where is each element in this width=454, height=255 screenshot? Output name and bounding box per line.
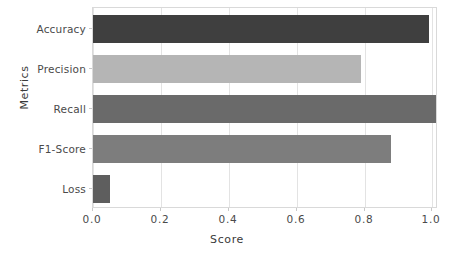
- y-tick-label-loss: Loss: [8, 183, 86, 195]
- bar-precision: [93, 55, 361, 83]
- x-tick-label-0.8: 0.8: [344, 213, 384, 225]
- x-tick-label-1.0: 1.0: [411, 213, 451, 225]
- y-axis-title-wrapper: Metrics: [13, 28, 32, 148]
- bar-f1-score: [93, 135, 391, 163]
- bar-loss: [93, 175, 110, 203]
- bar-accuracy: [93, 15, 429, 43]
- x-tick-label-0.0: 0.0: [72, 213, 112, 225]
- y-tick-label-f1-score: F1-Score: [8, 143, 86, 155]
- x-tick-mark-0.2: [160, 208, 161, 211]
- bar-chart-figure: Metrics Accuracy Precision Recall F1-Sco…: [0, 0, 454, 255]
- x-axis-title: Score: [0, 233, 454, 246]
- x-tick-mark-0.0: [92, 208, 93, 211]
- x-tick-label-0.4: 0.4: [208, 213, 248, 225]
- y-tick-label-accuracy: Accuracy: [8, 23, 86, 35]
- x-tick-label-0.2: 0.2: [140, 213, 180, 225]
- plot-area: [92, 7, 437, 208]
- x-tick-label-0.6: 0.6: [276, 213, 316, 225]
- x-tick-mark-1.0: [431, 208, 432, 211]
- x-tick-mark-0.6: [296, 208, 297, 211]
- x-tick-mark-0.4: [228, 208, 229, 211]
- y-tick-label-recall: Recall: [8, 103, 86, 115]
- bar-recall: [93, 95, 436, 123]
- x-tick-mark-0.8: [364, 208, 365, 211]
- y-tick-label-precision: Precision: [8, 63, 86, 75]
